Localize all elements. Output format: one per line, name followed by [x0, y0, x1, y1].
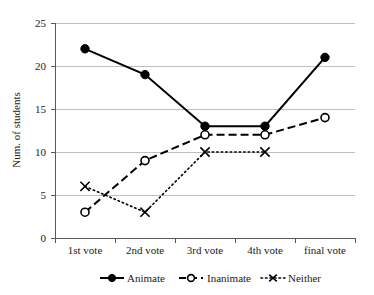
chart-canvas: 25 20 15 10 5 0 Num. of students 1st vot… — [0, 0, 374, 295]
y-tick-label-10: 10 — [35, 146, 47, 158]
open-circle-icon — [188, 275, 195, 282]
y-tick-label-5: 5 — [41, 189, 47, 201]
data-point-marker-filled-circle — [201, 122, 209, 130]
data-point-marker-filled-circle — [261, 122, 269, 130]
filled-circle-icon — [108, 274, 115, 281]
data-point-marker-open-circle — [321, 114, 329, 122]
data-point-marker-open-circle — [201, 131, 209, 139]
y-axis-title: Num. of students — [10, 92, 22, 167]
y-tick-label-25: 25 — [35, 17, 47, 29]
x-tick-label-1st-vote: 1st vote — [68, 244, 103, 256]
data-point-marker-filled-circle — [81, 45, 89, 53]
data-point-marker-open-circle — [141, 157, 149, 165]
legend-label-inanimate: Inanimate — [207, 272, 251, 284]
y-tick-label-0: 0 — [41, 232, 47, 244]
x-tick-label-4th-vote: 4th vote — [247, 244, 283, 256]
data-point-marker-filled-circle — [321, 53, 329, 61]
line-chart-figure: 25 20 15 10 5 0 Num. of students 1st vot… — [0, 0, 374, 295]
data-point-marker-open-circle — [261, 131, 269, 139]
x-tick-label-2nd-vote: 2nd vote — [126, 244, 164, 256]
legend-label-animate: Animate — [127, 272, 165, 284]
y-tick-label-15: 15 — [35, 103, 47, 115]
data-point-marker-filled-circle — [141, 70, 149, 78]
y-tick-label-20: 20 — [35, 60, 47, 72]
legend-label-neither: Neither — [288, 272, 321, 284]
data-point-marker-open-circle — [81, 208, 89, 216]
x-tick-label-final-vote: final vote — [304, 244, 346, 256]
x-tick-label-3rd-vote: 3rd vote — [187, 244, 223, 256]
chart-legend: Animate Inanimate Neither — [100, 272, 321, 284]
